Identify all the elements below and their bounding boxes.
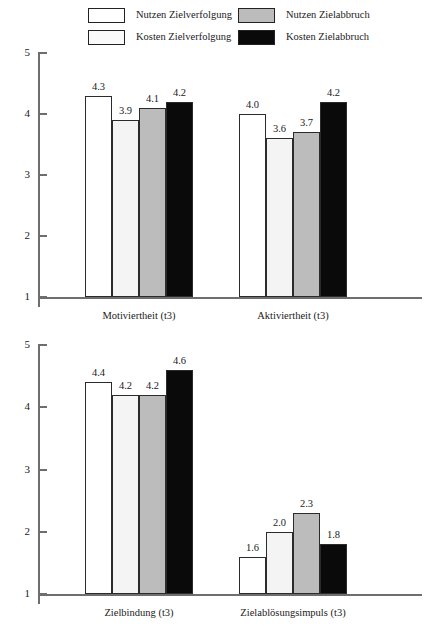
x-axis-baseline xyxy=(38,297,422,299)
chart-legend: Nutzen ZielverfolgungNutzen ZielabbruchK… xyxy=(0,0,430,48)
legend-label: Kosten Zielverfolgung xyxy=(136,32,231,43)
bar xyxy=(293,132,320,297)
bar xyxy=(85,96,112,297)
legend-row: Nutzen ZielverfolgungNutzen Zielabbruch xyxy=(0,8,430,28)
y-axis-tick xyxy=(38,113,47,115)
legend-swatch-icon xyxy=(88,8,125,23)
plot-area-bottom: 123454.44.24.24.6Zielbindung (t3)1.62.02… xyxy=(0,337,430,599)
bar xyxy=(112,395,139,594)
legend-swatch-icon xyxy=(238,30,275,45)
bar xyxy=(139,108,166,297)
y-axis-tick xyxy=(38,406,47,408)
bar xyxy=(166,102,193,297)
y-axis-tick-label: 4 xyxy=(8,401,30,412)
y-axis-tick xyxy=(38,174,47,176)
legend-label: Nutzen Zielabbruch xyxy=(286,10,370,21)
legend-entry: Kosten Zielverfolgung xyxy=(88,30,231,45)
y-axis-tick-label: 1 xyxy=(8,291,30,302)
bar xyxy=(320,544,347,594)
bar-value-label: 4.4 xyxy=(79,368,118,379)
legend-label: Nutzen Zielverfolgung xyxy=(136,10,232,21)
bar xyxy=(293,513,320,594)
y-axis xyxy=(38,53,40,307)
y-axis-tick-label: 3 xyxy=(8,169,30,180)
y-axis-tick xyxy=(38,235,47,237)
y-axis-tick-label: 2 xyxy=(8,526,30,537)
bar-value-label: 1.8 xyxy=(314,530,353,541)
y-axis-tick xyxy=(38,344,47,346)
bar xyxy=(320,102,347,297)
chart-panel-top: 123454.33.94.14.2Motiviertheit (t3)4.03.… xyxy=(0,45,430,330)
legend-entry: Nutzen Zielabbruch xyxy=(238,8,370,23)
bar xyxy=(85,382,112,594)
x-axis-group-label: Zielablösungsimpuls (t3) xyxy=(213,608,373,619)
bar-value-label: 2.3 xyxy=(287,499,326,510)
bar xyxy=(266,138,293,297)
bar xyxy=(266,532,293,594)
bar xyxy=(239,114,266,297)
bar-value-label: 4.0 xyxy=(233,100,272,111)
y-axis-tick-label: 1 xyxy=(8,588,30,599)
y-axis-tick xyxy=(38,469,47,471)
y-axis-tick-label: 5 xyxy=(8,47,30,58)
bar-value-label: 4.2 xyxy=(314,88,353,99)
plot-area-top: 123454.33.94.14.2Motiviertheit (t3)4.03.… xyxy=(0,45,430,305)
legend-swatch-icon xyxy=(88,30,125,45)
bar xyxy=(239,557,266,594)
bar-value-label: 4.6 xyxy=(160,356,199,367)
x-axis-group-label: Zielbindung (t3) xyxy=(59,608,219,619)
bar-value-label: 4.3 xyxy=(79,82,118,93)
x-axis-group-label: Motiviertheit (t3) xyxy=(59,311,219,322)
bar-value-label: 4.2 xyxy=(160,88,199,99)
y-axis-tick-label: 4 xyxy=(8,108,30,119)
legend-swatch-icon xyxy=(238,8,275,23)
y-axis xyxy=(38,345,40,604)
x-axis-baseline xyxy=(38,594,422,596)
legend-label: Kosten Zielabbruch xyxy=(286,32,369,43)
bar xyxy=(166,370,193,594)
x-axis-group-label: Aktiviertheit (t3) xyxy=(213,311,373,322)
legend-entry: Kosten Zielabbruch xyxy=(238,30,369,45)
y-axis-tick xyxy=(38,52,47,54)
y-axis-tick-label: 5 xyxy=(8,339,30,350)
bar xyxy=(112,120,139,297)
chart-panel-bottom: 123454.44.24.24.6Zielbindung (t3)1.62.02… xyxy=(0,337,430,633)
y-axis-tick xyxy=(38,296,47,298)
y-axis-tick-label: 2 xyxy=(8,230,30,241)
bar xyxy=(139,395,166,594)
legend-entry: Nutzen Zielverfolgung xyxy=(88,8,232,23)
y-axis-tick xyxy=(38,531,47,533)
y-axis-tick-label: 3 xyxy=(8,464,30,475)
y-axis-tick xyxy=(38,593,47,595)
